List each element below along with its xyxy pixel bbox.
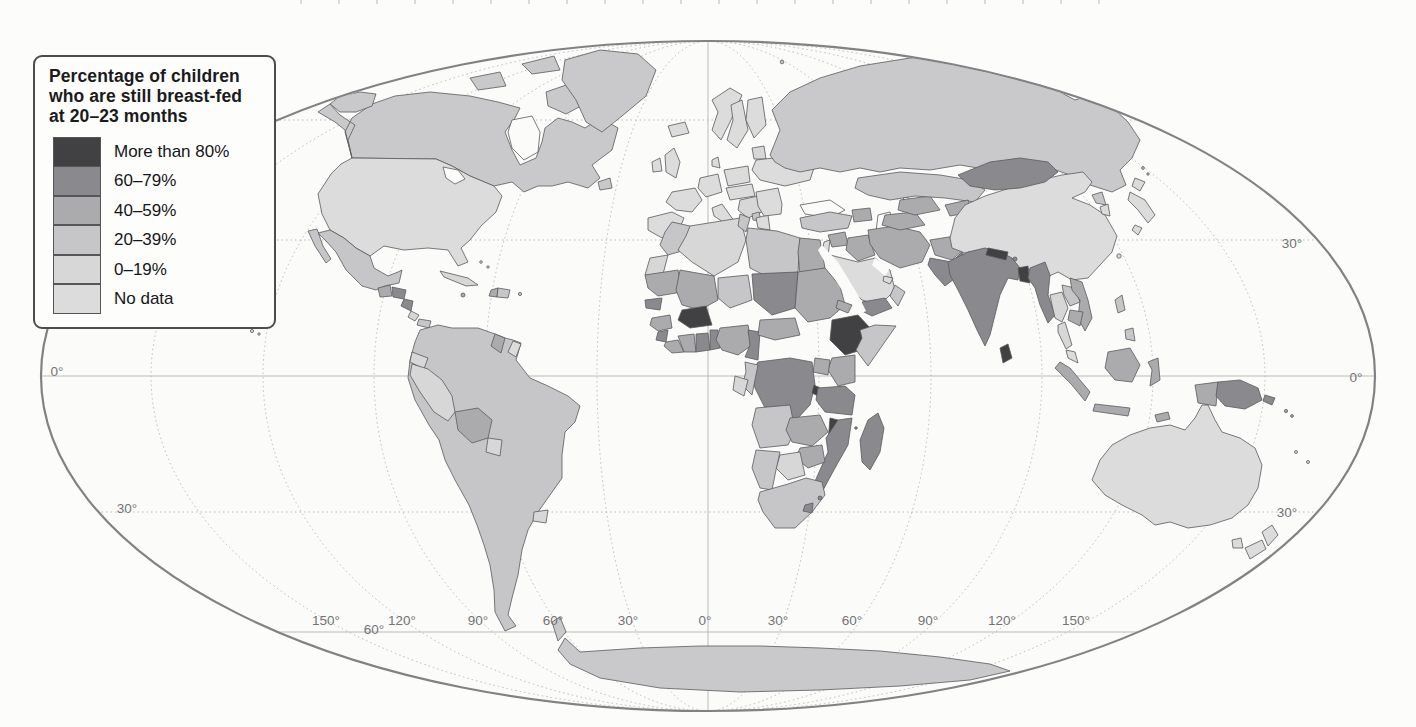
legend-swatch-40-59	[53, 196, 101, 226]
legend-label-more-than-80: More than 80%	[114, 142, 229, 162]
region-fiji	[1307, 461, 1310, 464]
region-hawaii	[250, 329, 253, 332]
region-bahamas	[480, 261, 483, 264]
legend-title-line3: at 20–23 months	[49, 106, 262, 126]
region-puerto-rico	[518, 292, 521, 295]
region-hawaii-2	[258, 333, 260, 335]
lat-label-30s-left: 30°	[117, 501, 137, 516]
legend-label-20-39: 20–39%	[114, 230, 176, 250]
region-solomons	[1284, 409, 1287, 412]
lon-label-60e: 60°	[842, 613, 862, 628]
legend-label-no-data: No data	[114, 289, 174, 309]
legend-swatch-no-data	[53, 284, 101, 314]
region-svalbard	[780, 60, 784, 64]
region-senegal	[645, 298, 662, 310]
lon-label-150w: 150°	[312, 613, 340, 628]
legend-swatch-60-79	[53, 166, 101, 196]
region-kurils-2	[1147, 173, 1149, 175]
region-jamaica	[461, 293, 465, 297]
region-uganda	[813, 358, 830, 375]
legend-item-more-than-80: More than 80%	[53, 137, 229, 167]
lon-label-90e: 90°	[918, 613, 938, 628]
lat-label-0-left: 0°	[51, 364, 64, 379]
lon-label-150e: 150°	[1062, 613, 1090, 628]
legend-title: Percentage of children who are still bre…	[49, 66, 262, 126]
region-baltics	[752, 146, 766, 159]
lat-label-0-right: 0°	[1350, 370, 1363, 385]
legend-item-20-39: 20–39%	[53, 226, 229, 256]
region-west-papua	[1195, 382, 1218, 406]
region-bhutan	[1013, 257, 1017, 261]
lat-label-30n-right: 30°	[1282, 236, 1302, 251]
legend-label-40-59: 40–59%	[114, 201, 176, 221]
map-legend: Percentage of children who are still bre…	[33, 55, 276, 329]
region-comoros	[855, 427, 858, 430]
region-tasmania	[1232, 538, 1243, 548]
legend-item-0-19: 0–19%	[53, 255, 229, 285]
lat-label-60s: 60°	[364, 622, 384, 637]
lon-label-30w: 30°	[618, 613, 638, 628]
legend-item-40-59: 40–59%	[53, 196, 229, 226]
region-bangladesh	[1018, 266, 1030, 283]
region-syria	[828, 232, 848, 247]
region-greece	[756, 215, 770, 230]
atlas-page: 30° 0° 0° 30° 30° 60° 150° 120° 90° 60° …	[0, 0, 1416, 727]
lon-label-90w: 90°	[468, 613, 488, 628]
region-ghana	[696, 333, 710, 352]
region-bahamas-2	[487, 266, 489, 268]
legend-label-60-79: 60–79%	[114, 171, 176, 191]
legend-title-line1: Percentage of children	[49, 66, 262, 86]
region-sierra-leone	[656, 330, 668, 342]
legend-swatch-0-19	[53, 255, 101, 285]
lon-label-0: 0°	[699, 613, 712, 628]
legend-swatch-more-than-80	[53, 137, 101, 167]
region-poland	[724, 166, 750, 186]
legend-swatch-20-39	[53, 225, 101, 255]
lon-label-30e: 30°	[768, 613, 788, 628]
lon-label-120e: 120°	[988, 613, 1016, 628]
region-uruguay	[533, 510, 548, 523]
legend-rows: More than 80% 60–79% 40–59% 20–39% 0–19%…	[53, 137, 229, 314]
region-vanuatu	[1295, 451, 1298, 454]
legend-item-no-data: No data	[53, 285, 229, 315]
region-caucasus	[852, 208, 872, 222]
region-swaziland	[818, 496, 822, 500]
region-solomons-2	[1291, 415, 1294, 418]
region-kurils	[1142, 167, 1145, 170]
lon-label-120w: 120°	[388, 613, 416, 628]
legend-title-line2: who are still breast-fed	[49, 86, 262, 106]
lon-label-60w: 60°	[543, 613, 563, 628]
legend-label-0-19: 0–19%	[114, 260, 167, 280]
region-taiwan	[1117, 254, 1121, 258]
region-dominican-republic	[497, 288, 510, 298]
lat-label-30s-right: 30°	[1277, 505, 1297, 520]
legend-item-60-79: 60–79%	[53, 167, 229, 197]
